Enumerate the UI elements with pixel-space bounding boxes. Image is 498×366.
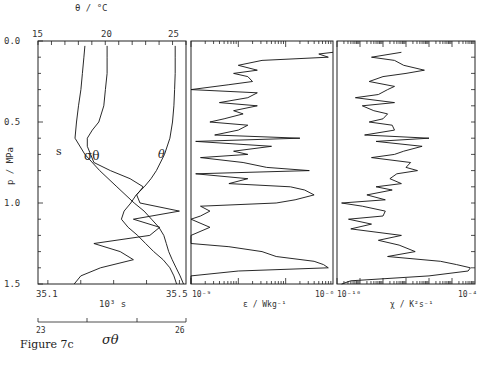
top-tick-20: 20	[101, 29, 112, 39]
sigma-tick-26: 26	[175, 326, 185, 335]
top-axis-label: θ / °C	[75, 3, 108, 13]
figure-canvas: θ / °C 15 20 25 0.0 0.5 1.0 1.5 p / MPa …	[0, 0, 498, 366]
y-tick-15: 1.5	[4, 279, 20, 289]
figure-caption: Figure 7c	[20, 338, 74, 351]
y-tick-10: 1.0	[4, 198, 20, 208]
chi-tick-max: 10⁻⁴	[458, 290, 477, 299]
epsilon-axis-label: ε / Wkg⁻¹	[243, 300, 286, 309]
bottom-axis-label: 10³ s	[99, 299, 126, 309]
chi-right-ticks	[471, 57, 475, 268]
sigma-theta-curve-label: σθ	[84, 149, 99, 163]
y-axis-label: p / MPa	[5, 147, 15, 185]
bottom-axis-ticks	[48, 280, 180, 284]
sigma-axis-label: σθ	[102, 332, 119, 347]
y-tick-05: 0.5	[4, 117, 20, 127]
panel-epsilon: 10⁻⁹ 10⁻⁶ ε / Wkg⁻¹	[191, 41, 334, 309]
epsilon-tick-min: 10⁻⁹	[192, 290, 211, 299]
bottom-tick-351: 35.1	[36, 289, 58, 299]
left-axis-ticks	[38, 41, 43, 284]
theta-curve	[121, 46, 176, 284]
panel-profiles: θ / °C 15 20 25 0.0 0.5 1.0 1.5 p / MPa …	[4, 3, 188, 309]
sigma-theta-curve	[75, 46, 184, 284]
top-axis-ticks	[38, 41, 186, 45]
salinity-curve-label: s	[56, 145, 62, 158]
salinity-curve	[74, 46, 179, 284]
chi-curve	[342, 52, 471, 284]
y-tick-0: 0.0	[4, 36, 20, 46]
bottom-tick-355: 35.5	[166, 289, 188, 299]
panel-profiles-frame	[38, 41, 186, 284]
chi-axis-label: χ / K²s⁻¹	[390, 300, 433, 309]
epsilon-curve	[191, 52, 333, 284]
panel-epsilon-frame	[191, 41, 333, 284]
epsilon-tick-max: 10⁻⁶	[315, 290, 334, 299]
chi-tick-min: 10⁻¹⁰	[337, 290, 361, 299]
top-tick-15: 15	[32, 29, 43, 39]
theta-curve-label: θ	[158, 148, 165, 161]
panel-chi: 10⁻¹⁰ 10⁻⁴ χ / K²s⁻¹	[337, 41, 477, 309]
sigma-tick-23: 23	[36, 326, 46, 335]
epsilon-log-ticks	[191, 41, 331, 284]
top-tick-25: 25	[168, 29, 179, 39]
